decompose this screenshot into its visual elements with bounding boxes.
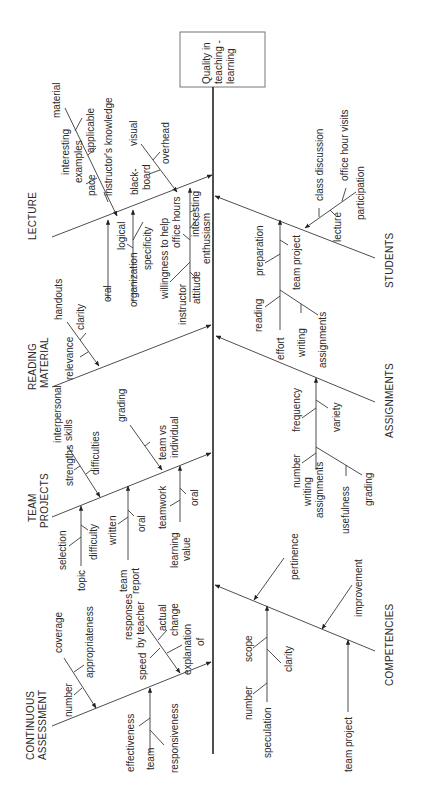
cause-of: of (195, 637, 206, 646)
cause-oral: oral (102, 285, 113, 302)
competencies-bone (215, 585, 375, 651)
tick (74, 665, 84, 672)
cause-written: written (107, 516, 118, 546)
cause-visual: visual (128, 120, 139, 146)
tick (69, 537, 81, 546)
cause-assignments: assignments (317, 312, 328, 368)
cause-selection: selection (57, 531, 68, 570)
category-continuous-assessment: CONTINUOUS ASSESSMENT coverage number ap… (25, 594, 211, 773)
cause-by-teacher: by teacher (135, 601, 146, 648)
cause-assignments: assignments (314, 462, 325, 518)
cause-strengths: strengths (64, 445, 75, 486)
tick (80, 352, 88, 357)
category-competencies: COMPETENCIES pertinence improvement scop… (215, 533, 395, 772)
cause-frequency: frequency (291, 388, 302, 432)
cause-preparation: preparation (254, 225, 265, 276)
cause-pertinence: pertinence (289, 533, 300, 580)
tick (127, 244, 133, 248)
tick (253, 683, 267, 694)
tick (139, 718, 150, 726)
tick (302, 408, 316, 418)
continuous-assessment-title-2: ASSESSMENT (37, 690, 48, 760)
cause-speculation: speculation (262, 707, 273, 758)
assignments-title: ASSIGNMENTS (384, 363, 395, 438)
cause-overhead: overhead (160, 122, 171, 164)
cause-number: number (291, 453, 302, 488)
cause-interesting-2: interesting (190, 191, 201, 237)
cause-grading: grading (363, 473, 374, 506)
cause-effectiveness: effectiveness (125, 714, 136, 772)
cause-office-hour-visits: office hour visits (339, 109, 350, 181)
cause-willingness-to-help: willingness to help (159, 217, 170, 300)
tick (74, 688, 82, 695)
cause-responsiveness: responsiveness (169, 704, 180, 773)
tick (183, 234, 190, 240)
cause-variety: variety (331, 403, 342, 432)
cause-attitude: attitude (191, 271, 202, 304)
cause-handouts: handouts (53, 279, 64, 320)
tick (150, 730, 164, 745)
effect-box: Quality in teaching - learning (180, 32, 265, 87)
cause-clarity: clarity (75, 304, 86, 330)
cause-usefulness: usefulness (340, 486, 351, 534)
tick (170, 262, 190, 282)
cause-value: value (181, 537, 192, 561)
cause-reading: reading (253, 299, 264, 332)
category-students: STUDENTS class discussion office hour vi… (215, 109, 395, 368)
cause-team-project: team project (291, 235, 302, 290)
cause-instructor: instructor (177, 283, 188, 325)
cause-coverage: coverage (53, 611, 64, 653)
effect-line-3: learning (225, 48, 236, 84)
cause-explanation: explanation (182, 624, 193, 675)
cause-report: report (130, 568, 141, 594)
tick (316, 400, 328, 408)
cause-team-vs: team vs (157, 425, 168, 460)
cause-change: change (169, 603, 180, 636)
cause-grading: grading (116, 389, 127, 422)
lecture-title: LECTURE (27, 192, 38, 240)
tick (265, 254, 280, 263)
cause-number: number (63, 682, 74, 717)
tick (150, 648, 160, 658)
cause-number: number (243, 685, 254, 720)
tick (170, 500, 180, 506)
cause-skills: skills (63, 419, 74, 441)
tick (253, 637, 267, 648)
cause-speed: speed (137, 653, 148, 680)
cause-writing: writing (302, 477, 313, 507)
cause-learning: learning (169, 532, 180, 568)
cause-enthusiasm: enthusiasm (201, 213, 212, 264)
cause-improvement: improvement (353, 559, 364, 617)
cause-material: material (51, 82, 62, 118)
cause-appropriateness: appropriateness (84, 606, 95, 678)
cause-interpersonal: interpersonal (52, 385, 63, 443)
cause-black: black- (129, 168, 140, 195)
cause-difficulties: difficulties (90, 431, 101, 475)
cause-responses: responses (123, 594, 134, 640)
cause-organization: organization (128, 253, 139, 307)
cause-difficulty: difficulty (88, 524, 99, 560)
cause-participation: participation (355, 166, 366, 220)
cause-topic: topic (76, 570, 87, 591)
cause-logical: logical (116, 222, 127, 250)
cause-team: team (118, 570, 129, 592)
tick (280, 240, 288, 245)
tick (80, 333, 86, 340)
cause-pace: pace (86, 174, 97, 196)
tick (167, 645, 182, 653)
category-assignments: ASSIGNMENTS number frequency variety wri… (216, 336, 395, 534)
cause-instructors-knowledge: instructor's knowledge (103, 97, 114, 196)
cause-board: board (141, 164, 152, 190)
cause-class-discussion: class discussion (314, 129, 325, 201)
cause-writing: writing (296, 328, 307, 358)
cause-office-hours: office hours (171, 196, 182, 248)
cause-scope: scope (243, 635, 254, 662)
tick (280, 290, 318, 315)
competencies-improvement-bone (322, 585, 352, 629)
tick (267, 649, 281, 663)
tick (128, 510, 134, 516)
cause-actual: actual (157, 604, 168, 631)
cause-team-project: team project (343, 717, 354, 772)
continuous-assessment-title-1: CONTINUOUS (25, 691, 36, 760)
cause-lecture: lecture (332, 212, 343, 242)
